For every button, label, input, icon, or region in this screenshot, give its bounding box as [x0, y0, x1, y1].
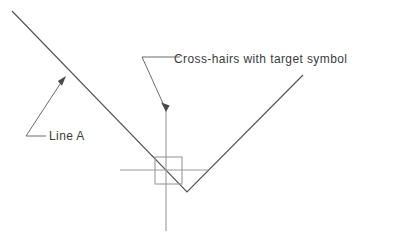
line-a-annotation-label: Line A [49, 129, 85, 143]
line-a-leader-arrowhead [58, 76, 66, 86]
diagram-canvas: Cross-hairs with target symbol Line A [0, 0, 396, 239]
crosshair-annotation-label: Cross-hairs with target symbol [174, 52, 347, 66]
technical-diagram: Cross-hairs with target symbol Line A [0, 0, 396, 239]
line-a-geometry [12, 11, 303, 192]
crosshair-leader-arrowhead [161, 103, 169, 112]
line-a-leader-line [26, 78, 64, 136]
